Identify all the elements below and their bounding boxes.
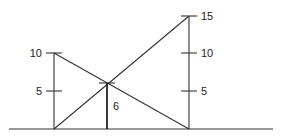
left-label-10: 10 [30,47,42,59]
right-label-15: 15 [201,10,213,22]
right-label-10: 10 [201,47,213,59]
crossed-poles-diagram: 10 5 15 10 5 6 [0,0,282,136]
cross-line-left-base-to-right-top [54,16,189,129]
left-label-5: 5 [36,85,42,97]
cross-line-left-top-to-right-base [54,53,189,129]
intersection-height-label: 6 [113,100,119,112]
right-label-5: 5 [201,85,207,97]
